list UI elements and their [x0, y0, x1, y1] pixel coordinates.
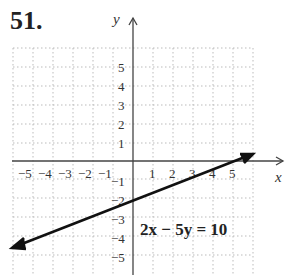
y-tick: −4 — [111, 231, 125, 246]
y-tick: 1 — [118, 136, 125, 151]
x-tick: −1 — [98, 166, 112, 181]
x-tick: −3 — [58, 166, 72, 181]
y-tick: 2 — [118, 117, 125, 132]
y-tick: −1 — [111, 174, 125, 189]
x-axis-label: x — [274, 169, 282, 185]
x-tick: 1 — [149, 166, 156, 181]
y-tick: 4 — [118, 79, 125, 94]
x-tick: 2 — [169, 166, 176, 181]
y-axis-label: y — [111, 11, 120, 27]
x-tick: −5 — [18, 166, 32, 181]
y-tick: 3 — [118, 98, 125, 113]
equation-label: 2x − 5y = 10 — [140, 220, 227, 239]
x-tick: 5 — [229, 166, 236, 181]
x-tick: −4 — [38, 166, 52, 181]
x-tick: −2 — [78, 166, 92, 181]
coordinate-graph: y x −5 −4 −3 −2 −1 1 2 3 4 5 5 4 3 2 1 −… — [0, 0, 292, 275]
y-tick: −5 — [111, 250, 125, 265]
y-tick: −3 — [111, 212, 125, 227]
y-tick: 5 — [118, 60, 125, 75]
